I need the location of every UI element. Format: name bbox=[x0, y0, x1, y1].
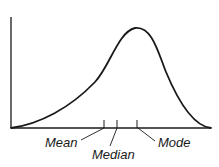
mode-label: Mode bbox=[158, 136, 191, 149]
mean-leader bbox=[81, 128, 104, 140]
median-label: Median bbox=[92, 148, 135, 161]
distribution-curve bbox=[11, 28, 211, 128]
median-leader bbox=[110, 128, 117, 146]
mode-leader bbox=[138, 128, 155, 141]
mean-label: Mean bbox=[45, 136, 78, 149]
